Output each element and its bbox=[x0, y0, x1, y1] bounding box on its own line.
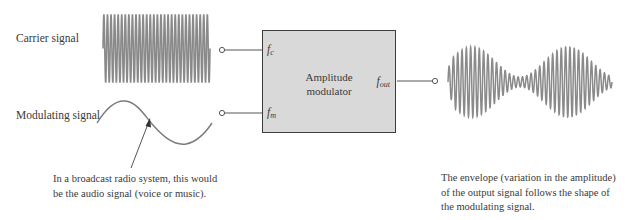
am-output-waveform bbox=[448, 47, 612, 117]
port-fm: fm bbox=[267, 106, 276, 120]
block-title: Amplitude modulator bbox=[263, 70, 395, 98]
amplitude-modulator-block: Amplitude modulator fc fm fout bbox=[262, 30, 396, 133]
output-note-line3: the modulating signal. bbox=[441, 200, 616, 215]
carrier-input-terminal bbox=[219, 47, 224, 52]
port-fc: fc bbox=[267, 43, 274, 57]
modulating-input-terminal bbox=[219, 110, 224, 115]
carrier-waveform bbox=[103, 15, 210, 83]
carrier-signal-label: Carrier signal bbox=[16, 31, 79, 45]
output-note: The envelope (variation in the amplitude… bbox=[441, 171, 616, 215]
block-title-line2: modulator bbox=[263, 84, 395, 98]
modulating-note: In a broadcast radio system, this would … bbox=[53, 172, 217, 201]
port-fout: fout bbox=[377, 75, 390, 89]
output-note-line2: of the output signal follows the shape o… bbox=[441, 186, 616, 201]
modulating-waveform bbox=[97, 101, 212, 144]
modulating-note-line1: In a broadcast radio system, this would bbox=[53, 172, 217, 187]
block-title-line1: Amplitude bbox=[263, 70, 395, 84]
modulating-note-line2: be the audio signal (voice or music). bbox=[53, 187, 217, 202]
output-terminal bbox=[432, 78, 437, 83]
modulating-signal-label: Modulating signal bbox=[16, 108, 100, 122]
output-note-line1: The envelope (variation in the amplitude… bbox=[441, 171, 616, 186]
annotation-arrow bbox=[131, 124, 148, 168]
